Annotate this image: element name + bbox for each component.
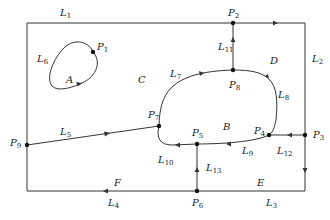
arrow-l12-icon: [287, 133, 292, 138]
edge-l6: [50, 42, 98, 89]
point-p6: [195, 189, 199, 193]
region-label-b: B: [222, 121, 230, 132]
point-p7: [157, 124, 161, 128]
edge-label-l6: L6: [36, 53, 49, 66]
point-p5: [195, 142, 199, 146]
edge-l9: [197, 135, 269, 144]
arrow-l4-icon: [103, 189, 108, 194]
point-label-p3: P3: [312, 129, 324, 142]
edge-label-l5: L5: [59, 126, 71, 139]
region-label-c: C: [138, 74, 146, 85]
point-label-p9: P9: [9, 137, 21, 150]
point-label-p2: P2: [227, 7, 239, 20]
point-p3: [303, 133, 307, 137]
arrow-l1-icon: [273, 21, 278, 26]
arrow-l10-icon: [175, 143, 180, 148]
arrow-l7-icon: [199, 71, 204, 76]
arrow-l11-icon: [231, 37, 236, 42]
point-p4: [267, 133, 271, 137]
edge-label-l13: L13: [205, 162, 222, 175]
edge-label-l9: L9: [241, 145, 253, 158]
edge-label-l12: L12: [276, 145, 293, 158]
point-p8: [231, 68, 235, 72]
diagram-canvas: P1P2P3P4P5P6P7P8P9 L1L2L3L4L5L6L7L8L9L10…: [0, 0, 330, 220]
point-label-p5: P5: [191, 127, 203, 140]
edge-label-l8: L8: [277, 89, 289, 102]
edge-label-l2: L2: [311, 53, 323, 66]
edge-label-l1: L1: [59, 7, 71, 20]
arrow-l2-icon: [303, 168, 308, 173]
point-label-p1: P1: [96, 41, 108, 54]
point-p1: [91, 50, 95, 54]
point-label-p6: P6: [191, 197, 204, 210]
arrow-l6-icon: [76, 82, 82, 87]
region-label-f: F: [113, 177, 122, 188]
point-p2: [231, 21, 235, 25]
point-label-p8: P8: [228, 79, 240, 92]
point-label-p4: P4: [253, 125, 266, 138]
arrow-l13-icon: [195, 167, 200, 172]
edge-label-l11: L11: [217, 41, 234, 54]
edge-labels-layer: L1L2L3L4L5L6L7L8L9L10L11L12L13: [36, 7, 323, 210]
arrow-l5-icon: [104, 132, 110, 137]
edge-label-l4: L4: [107, 197, 120, 210]
edge-l5: [27, 126, 159, 145]
edge-label-l7: L7: [169, 68, 181, 81]
edge-label-l3: L3: [265, 197, 277, 210]
region-label-a: A: [65, 74, 73, 85]
edge-label-l10: L10: [157, 154, 174, 167]
point-label-p7: P7: [147, 109, 159, 122]
point-p9: [25, 143, 29, 147]
arrow-l9-icon: [226, 142, 231, 147]
region-label-e: E: [256, 177, 265, 188]
region-label-d: D: [269, 55, 278, 66]
